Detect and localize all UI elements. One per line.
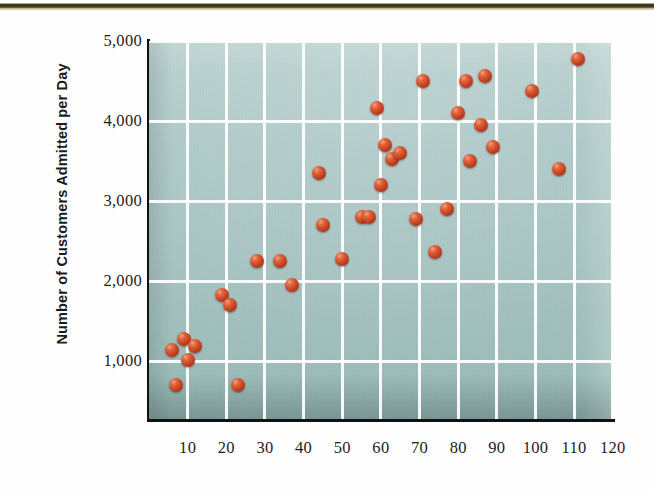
- scatter-point: [525, 84, 539, 98]
- scatter-point: [428, 245, 442, 259]
- scatter-point: [416, 74, 430, 88]
- scatter-point: [552, 162, 566, 176]
- scatter-point: [316, 218, 330, 232]
- scatter-point: [571, 52, 585, 66]
- scatter-point: [285, 278, 299, 292]
- y-axis-tick-label: 4,000: [60, 111, 142, 131]
- scatter-point: [362, 210, 376, 224]
- y-axis-tick-label: 3,000: [60, 191, 142, 211]
- x-axis-tick-label: 110: [562, 438, 587, 458]
- plot-wrapper: [147, 39, 615, 422]
- y-axis-tick-labels: 5,0004,0003,0002,0001,000: [60, 0, 142, 492]
- scatter-point: [486, 140, 500, 154]
- scatter-point: [463, 154, 477, 168]
- scatter-point: [478, 69, 492, 83]
- x-axis-tick-labels: 102030405060708090100110120: [147, 438, 617, 472]
- scatter-point: [374, 178, 388, 192]
- x-axis-tick-label: 20: [218, 438, 235, 458]
- scatter-point: [393, 146, 407, 160]
- gridline-horizontal: [149, 280, 613, 283]
- scatter-point: [409, 212, 423, 226]
- y-axis-tick-label: 1,000: [60, 351, 142, 371]
- x-axis-tick-label: 70: [411, 438, 428, 458]
- x-axis-tick-label: 90: [488, 438, 505, 458]
- scatter-point: [181, 353, 195, 367]
- scatter-point: [335, 252, 349, 266]
- scatter-point: [273, 254, 287, 268]
- scatter-point: [169, 378, 183, 392]
- scatter-point: [231, 378, 245, 392]
- gridline-horizontal: [149, 360, 613, 363]
- scatter-point: [474, 118, 488, 132]
- y-axis-tick-label: 2,000: [60, 271, 142, 291]
- gridline-horizontal: [149, 200, 613, 203]
- scatter-point: [223, 298, 237, 312]
- scatter-point: [312, 166, 326, 180]
- gridline-horizontal: [149, 41, 613, 43]
- figure-page: Number of Customers Admitted per Day 5,0…: [0, 0, 654, 492]
- scatter-point: [459, 74, 473, 88]
- scatter-point: [188, 339, 202, 353]
- scatter-point: [451, 106, 465, 120]
- x-axis-tick-label: 10: [179, 438, 196, 458]
- scatter-point: [165, 343, 179, 357]
- x-axis-tick-label: 40: [295, 438, 312, 458]
- x-axis-tick-label: 120: [600, 438, 626, 458]
- x-axis-tick-label: 60: [372, 438, 389, 458]
- x-axis-tick-label: 50: [334, 438, 351, 458]
- scatter-point: [250, 254, 264, 268]
- x-axis-tick-label: 30: [256, 438, 273, 458]
- scatter-point: [378, 138, 392, 152]
- plot-area: [149, 41, 613, 419]
- scatter-point: [440, 202, 454, 216]
- gridline-horizontal: [149, 120, 613, 123]
- y-axis-tick-label: 5,000: [60, 31, 142, 51]
- x-axis-tick-label: 100: [523, 438, 549, 458]
- x-axis-tick-label: 80: [450, 438, 467, 458]
